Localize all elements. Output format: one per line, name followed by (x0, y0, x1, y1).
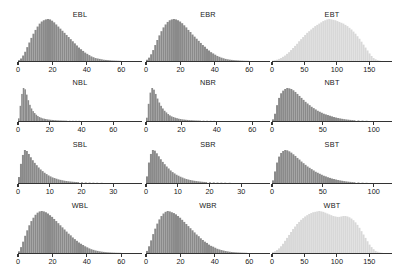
panel-title-wbr: WBR (146, 201, 270, 210)
x-tick-label: 20 (48, 257, 56, 266)
panel-title-sbr: SBR (146, 140, 270, 149)
histogram-grid-figure: EBL0204060EBR0204060EBT050100150NBL02040… (0, 0, 400, 280)
x-tick-label: 0 (270, 125, 274, 134)
x-tick-label: 150 (363, 65, 375, 74)
x-tick-label: 0 (270, 65, 274, 74)
histogram-panel-sbl: SBL0102030 (18, 140, 142, 195)
x-tick-labels-ebt: 050100150 (272, 65, 392, 75)
x-tick-label: 40 (83, 257, 91, 266)
x-tick-label: 0 (144, 187, 148, 196)
panel-title-nbr: NBR (146, 78, 270, 87)
panel-title-sbl: SBL (18, 140, 142, 149)
histogram-bars-wbl (18, 211, 142, 253)
x-tick-label: 50 (300, 65, 308, 74)
x-tick-label: 50 (300, 257, 308, 266)
panel-title-ebl: EBL (18, 10, 142, 19)
panel-title-nbl: NBL (18, 78, 142, 87)
x-tick-label: 20 (48, 65, 56, 74)
histogram-bars-sbr (146, 150, 270, 183)
histogram-bars-nbr (146, 88, 270, 121)
x-tick-label: 100 (368, 187, 380, 196)
histogram-panel-ebr: EBR0204060 (146, 10, 270, 73)
x-tick-label: 60 (117, 65, 125, 74)
histogram-panel-wbl: WBL0204060 (18, 201, 142, 265)
histogram-bars-nbl (18, 88, 142, 121)
x-tick-labels-ebr: 0204060 (146, 65, 270, 75)
x-tick-label: 40 (211, 257, 219, 266)
x-tick-label: 30 (237, 187, 245, 196)
x-tick-labels-wbl: 0204060 (18, 257, 142, 267)
x-tick-label: 60 (248, 125, 256, 134)
x-tick-label: 60 (109, 125, 117, 134)
x-tick-label: 100 (331, 257, 343, 266)
histogram-bars-wbt (272, 211, 392, 253)
x-tick-label: 0 (144, 65, 148, 74)
x-tick-label: 60 (117, 257, 125, 266)
panel-title-ebt: EBT (272, 10, 392, 19)
x-tick-label: 0 (16, 187, 20, 196)
x-tick-label: 20 (78, 187, 86, 196)
x-tick-label: 40 (78, 125, 86, 134)
x-tick-label: 10 (174, 187, 182, 196)
x-tick-label: 40 (213, 125, 221, 134)
histogram-bars-wbr (146, 211, 270, 253)
x-tick-label: 40 (211, 65, 219, 74)
x-tick-label: 0 (16, 65, 20, 74)
histogram-bars-ebr (146, 19, 270, 61)
x-tick-label: 0 (16, 125, 20, 134)
histogram-panel-nbl: NBL0204060 (18, 78, 142, 133)
histogram-bars-ebl (18, 19, 142, 61)
x-tick-labels-nbt: 050100 (272, 125, 392, 135)
panel-title-sbt: SBT (272, 140, 392, 149)
x-tick-label: 100 (368, 125, 380, 134)
histogram-panel-ebt: EBT050100150 (272, 10, 392, 73)
x-tick-label: 150 (363, 257, 375, 266)
histogram-bars-sbl (18, 150, 142, 183)
x-tick-label: 100 (331, 65, 343, 74)
x-tick-labels-sbr: 0102030 (146, 187, 270, 197)
panel-title-wbt: WBT (272, 201, 392, 210)
histogram-panel-wbt: WBT050100150 (272, 201, 392, 265)
x-tick-label: 60 (245, 257, 253, 266)
x-tick-labels-wbr: 0204060 (146, 257, 270, 267)
x-tick-label: 20 (177, 125, 185, 134)
x-tick-label: 20 (46, 125, 54, 134)
histogram-bars-ebt (272, 19, 392, 61)
panel-title-ebr: EBR (146, 10, 270, 19)
histogram-panel-wbr: WBR0204060 (146, 201, 270, 265)
x-tick-label: 10 (46, 187, 54, 196)
panel-title-nbt: NBT (272, 78, 392, 87)
x-tick-labels-nbr: 0204060 (146, 125, 270, 135)
x-tick-label: 40 (83, 65, 91, 74)
x-tick-label: 30 (109, 187, 117, 196)
x-tick-labels-sbt: 050100 (272, 187, 392, 197)
x-tick-label: 50 (319, 125, 327, 134)
histogram-bars-sbt (272, 150, 392, 183)
x-tick-label: 0 (16, 257, 20, 266)
x-tick-label: 20 (176, 257, 184, 266)
x-tick-label: 20 (206, 187, 214, 196)
histogram-panel-nbt: NBT050100 (272, 78, 392, 133)
x-tick-labels-sbl: 0102030 (18, 187, 142, 197)
x-tick-label: 50 (319, 187, 327, 196)
x-tick-label: 0 (270, 257, 274, 266)
x-tick-labels-ebl: 0204060 (18, 65, 142, 75)
x-tick-labels-nbl: 0204060 (18, 125, 142, 135)
panel-title-wbl: WBL (18, 201, 142, 210)
x-tick-label: 60 (245, 65, 253, 74)
x-tick-label: 0 (270, 187, 274, 196)
histogram-panel-nbr: NBR0204060 (146, 78, 270, 133)
histogram-bars-nbt (272, 88, 392, 121)
x-tick-label: 0 (144, 125, 148, 134)
histogram-panel-sbt: SBT050100 (272, 140, 392, 195)
histogram-panel-sbr: SBR0102030 (146, 140, 270, 195)
histogram-panel-ebl: EBL0204060 (18, 10, 142, 73)
x-tick-label: 0 (144, 257, 148, 266)
x-tick-label: 20 (176, 65, 184, 74)
x-tick-labels-wbt: 050100150 (272, 257, 392, 267)
